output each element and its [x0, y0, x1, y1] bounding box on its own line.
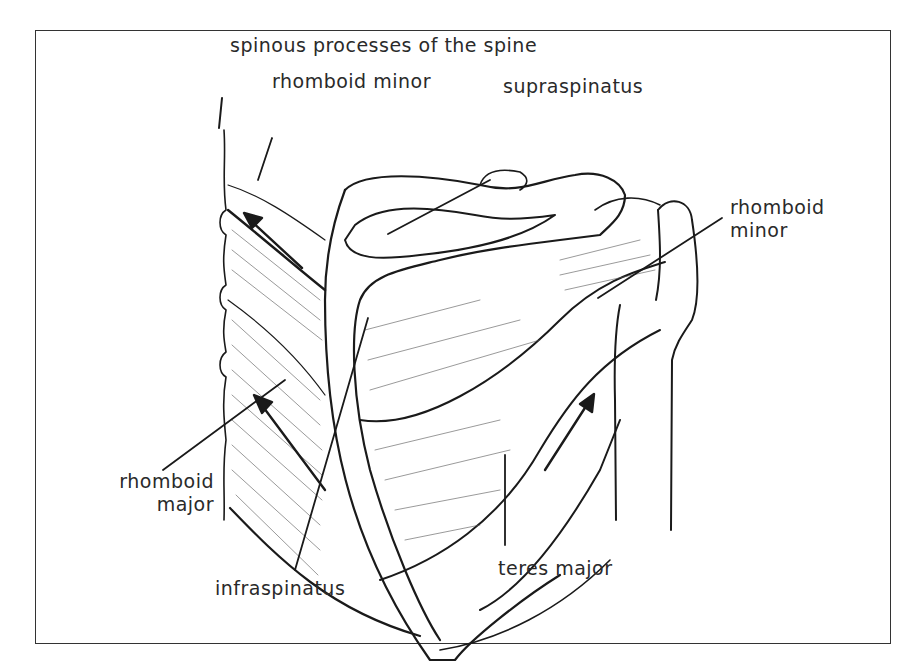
rhomboid-minor-muscle	[228, 185, 325, 290]
leader-infraspinatus	[295, 318, 368, 570]
teres-infraspinatus-bands	[360, 262, 665, 650]
leader-supraspinatus	[388, 180, 490, 234]
label-infraspinatus: infraspinatus	[215, 577, 345, 599]
shoulder-anatomy-illustration	[0, 0, 919, 669]
label-rhomboid-minor-right-line1: rhomboid	[730, 196, 825, 218]
spine-edge	[219, 98, 226, 520]
label-spinous-processes: spinous processes of the spine	[230, 34, 537, 56]
leader-rhomboid-minor-top	[258, 138, 272, 180]
label-supraspinatus: supraspinatus	[503, 75, 643, 97]
label-rhomboid-minor-top: rhomboid minor	[272, 70, 431, 92]
label-rhomboid-minor-right-line2: minor	[730, 219, 788, 241]
scapula	[325, 170, 660, 660]
humerus	[615, 201, 698, 530]
label-teres-major: teres major	[498, 557, 613, 579]
label-rhomboid-major-line2: major	[100, 493, 214, 515]
label-rhomboid-major-line1: rhomboid	[100, 470, 214, 492]
infraspinatus-hatching	[365, 240, 655, 540]
